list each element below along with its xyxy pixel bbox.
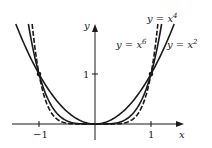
- x-axis-label: x: [179, 129, 185, 140]
- power-functions-chart: −1 1 1 x y y = x4 y = x6 y = x2: [0, 0, 212, 148]
- label-x2: y = x2: [166, 38, 198, 50]
- y-axis-label: y: [83, 20, 90, 31]
- x-axis-arrow-icon: [176, 121, 184, 127]
- point-neg1-1: [37, 72, 42, 77]
- label-x4: y = x4: [146, 12, 178, 24]
- y-axis-arrow-icon: [92, 24, 98, 32]
- y-tick-label-1: 1: [83, 69, 89, 80]
- x-tick-label-neg1: −1: [33, 129, 48, 140]
- x-tick-label-1: 1: [148, 129, 154, 140]
- label-x6: y = x6: [115, 38, 147, 50]
- point-1-1: [149, 72, 154, 77]
